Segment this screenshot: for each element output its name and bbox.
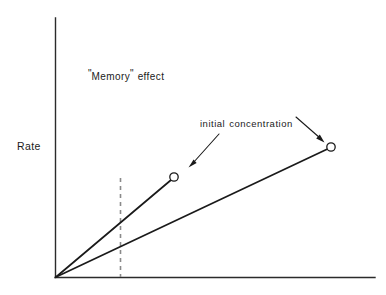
memory-effect-suffix: effect bbox=[138, 71, 165, 82]
endpoint-marker-lower bbox=[170, 173, 178, 181]
initial-concentration-annotation: initialconcentration bbox=[200, 118, 293, 129]
annotation-arrow-to-lower-marker bbox=[189, 134, 220, 168]
initial-concentration-word-two: concentration bbox=[229, 118, 293, 129]
memory-effect-close-quote: " bbox=[130, 68, 134, 79]
annotation-arrow-to-upper-marker bbox=[296, 117, 325, 143]
y-axis-label: Rate bbox=[17, 140, 41, 152]
initial-concentration-word-one: initial bbox=[200, 118, 225, 129]
figure-canvas bbox=[0, 0, 386, 295]
rate-line-steep bbox=[56, 180, 171, 277]
memory-effect-word: Memory bbox=[92, 71, 131, 82]
memory-effect-annotation: "Memory"effect bbox=[88, 68, 164, 82]
rate-line-shallow bbox=[56, 149, 328, 277]
endpoint-marker-upper bbox=[327, 143, 335, 151]
figure-root: Rate "Memory"effect initialconcentration bbox=[0, 0, 386, 295]
